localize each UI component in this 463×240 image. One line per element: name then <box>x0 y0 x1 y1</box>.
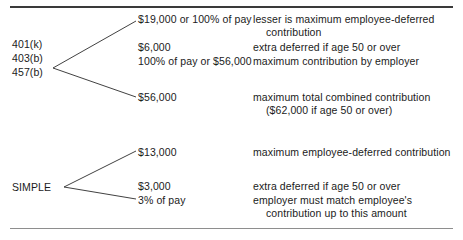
description-qualified-combined-max-cont: ($62,000 if age 50 or over) <box>266 104 392 117</box>
top-divider-rule <box>10 6 453 8</box>
description-qualified-combined-max: maximum total combined contribution <box>253 91 430 104</box>
description-qualified-catchup: extra deferred if age 50 or over <box>253 41 400 54</box>
simple-branch-lower-line <box>64 187 136 199</box>
description-qualified-deferral-limit-cont: contribution <box>266 26 321 39</box>
plan-label-401k: 401(k) <box>12 38 42 51</box>
value-qualified-combined-max: $56,000 <box>138 91 177 104</box>
plan-label-simple: SIMPLE <box>12 181 51 194</box>
description-simple-catchup: extra deferred if age 50 or over <box>253 180 400 193</box>
description-simple-employer-match-cont: contribution up to this amount <box>266 207 407 220</box>
contribution-limits-figure: 401(k) 403(b) 457(b) SIMPLE $19,000 or 1… <box>0 0 463 240</box>
description-qualified-deferral-limit: lesser is maximum employee-deferred <box>253 13 434 26</box>
value-qualified-catchup: $6,000 <box>138 41 171 54</box>
bottom-divider-rule <box>10 228 453 229</box>
value-qualified-employer-max: 100% of pay or $56,000 <box>138 55 252 68</box>
value-qualified-deferral-limit: $19,000 or 100% of pay <box>138 13 252 26</box>
value-simple-catchup: $3,000 <box>138 180 171 193</box>
value-simple-deferral-limit: $13,000 <box>138 146 177 159</box>
plan-label-457b: 457(b) <box>12 66 43 79</box>
description-simple-employer-match: employer must match employee's <box>253 194 412 207</box>
simple-branch-upper-line <box>64 151 136 187</box>
description-simple-deferral-limit: maximum employee-deferred contribution <box>253 146 451 159</box>
qualified-branch-upper-line <box>53 21 136 68</box>
description-qualified-employer-max: maximum contribution by employer <box>253 55 419 68</box>
value-simple-employer-match: 3% of pay <box>138 194 186 207</box>
qualified-branch-lower-line <box>53 68 136 97</box>
plan-label-403b: 403(b) <box>12 52 43 65</box>
